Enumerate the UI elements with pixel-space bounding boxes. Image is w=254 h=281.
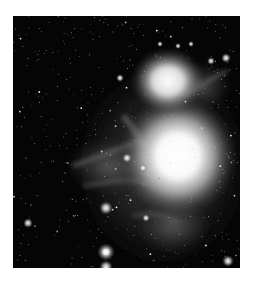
star — [67, 162, 69, 164]
star — [128, 203, 129, 204]
star — [69, 58, 70, 59]
star — [192, 19, 193, 20]
star — [17, 260, 18, 261]
star — [225, 123, 226, 124]
star — [147, 119, 148, 120]
star — [69, 89, 70, 90]
star — [116, 206, 118, 208]
star — [155, 221, 156, 222]
star — [132, 65, 133, 66]
star — [188, 58, 189, 59]
star — [108, 216, 109, 217]
star — [220, 187, 221, 188]
star — [179, 100, 180, 101]
star — [87, 170, 88, 171]
star — [19, 111, 21, 113]
star — [90, 31, 91, 32]
star — [66, 148, 67, 149]
star — [170, 113, 171, 114]
star — [230, 135, 232, 137]
star — [28, 91, 29, 92]
star — [115, 193, 116, 194]
star — [125, 22, 127, 24]
star — [80, 107, 82, 109]
bright-star — [99, 201, 113, 215]
star — [155, 54, 156, 55]
star — [20, 175, 21, 176]
star — [139, 194, 140, 195]
star — [235, 254, 237, 256]
star — [154, 260, 155, 261]
star — [238, 249, 239, 250]
star — [224, 75, 225, 76]
bright-star — [157, 41, 163, 47]
star — [200, 120, 201, 121]
star — [228, 107, 229, 108]
star — [30, 205, 31, 206]
bright-star — [23, 218, 33, 228]
star — [23, 107, 24, 108]
star — [219, 37, 220, 38]
star — [82, 122, 83, 123]
star — [156, 30, 158, 32]
star — [212, 255, 213, 256]
star — [17, 126, 18, 127]
star — [122, 25, 123, 26]
star — [175, 252, 176, 253]
star — [239, 93, 240, 94]
star — [146, 65, 147, 66]
star — [146, 184, 147, 185]
star — [127, 229, 128, 230]
star — [42, 97, 43, 98]
star — [103, 22, 104, 23]
star — [36, 236, 37, 237]
star — [131, 44, 132, 45]
star — [181, 221, 182, 222]
star — [117, 58, 118, 59]
star — [127, 68, 128, 69]
star — [182, 27, 183, 28]
star — [39, 102, 40, 103]
star — [171, 115, 172, 116]
star — [49, 22, 50, 23]
star — [234, 133, 235, 134]
star — [209, 20, 210, 21]
star — [71, 263, 72, 264]
star — [90, 202, 91, 203]
star — [86, 168, 87, 169]
star — [151, 164, 152, 165]
star — [75, 201, 76, 202]
star — [117, 102, 118, 103]
star — [226, 234, 227, 235]
star — [179, 234, 180, 235]
star — [68, 221, 69, 222]
star — [222, 232, 223, 233]
star — [93, 33, 94, 34]
star — [13, 196, 15, 198]
star — [46, 50, 47, 51]
star — [34, 225, 36, 227]
star — [66, 162, 67, 163]
star — [77, 215, 78, 216]
star — [93, 39, 94, 40]
star — [182, 100, 183, 101]
star — [96, 237, 97, 238]
star — [219, 181, 220, 182]
star — [115, 168, 117, 170]
star — [205, 146, 206, 147]
star — [222, 236, 223, 237]
star — [230, 152, 231, 153]
star — [50, 145, 51, 146]
star — [99, 36, 100, 37]
star — [237, 162, 238, 163]
nebula-core-upper — [130, 47, 206, 115]
star — [217, 72, 218, 73]
star — [185, 69, 186, 70]
star — [39, 50, 40, 51]
star — [223, 192, 224, 193]
bright-star — [122, 153, 132, 163]
star — [65, 18, 66, 19]
star — [190, 73, 191, 74]
star — [13, 42, 14, 43]
star — [18, 35, 19, 36]
